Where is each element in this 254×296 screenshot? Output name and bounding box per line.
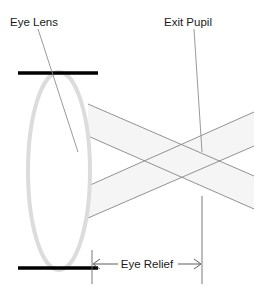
eye-lens-leader-line [38, 29, 78, 152]
eye-lens-label: Eye Lens [10, 16, 58, 28]
exit-pupil-leader-line [194, 29, 202, 152]
ray-bundle-fills [88, 104, 254, 218]
optical-diagram: Eye Lens Exit Pupil Eye Relief [0, 0, 254, 296]
exit-pupil-label: Exit Pupil [164, 16, 212, 28]
eye-lens-ellipse [28, 72, 90, 270]
eye-relief-label: Eye Relief [121, 258, 174, 270]
diagram-canvas: Eye Lens Exit Pupil Eye Relief [0, 0, 254, 296]
